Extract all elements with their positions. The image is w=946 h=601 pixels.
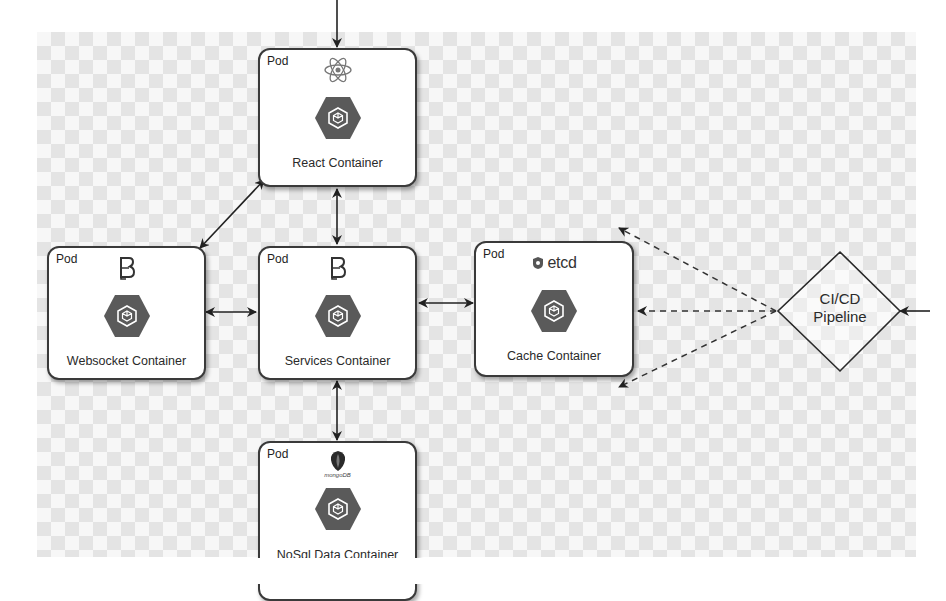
pod-cache[interactable]: Pod etcd Cache Container <box>474 241 634 377</box>
container-hexagon-icon <box>314 294 362 338</box>
cicd-label-line2: Pipeline <box>780 308 900 326</box>
pod-websocket[interactable]: Pod Websocket Container <box>47 246 206 380</box>
pod-title: Websocket Container <box>49 354 204 368</box>
etcd-logo-text: etcd <box>547 254 576 272</box>
crop-mask <box>0 558 946 584</box>
pod-title: React Container <box>260 156 415 170</box>
pod-services[interactable]: Pod Services Container <box>258 246 417 380</box>
bitbucket-b-icon <box>260 254 415 282</box>
bitbucket-b-icon <box>49 254 204 282</box>
pod-react[interactable]: Pod React Container <box>258 48 417 187</box>
container-hexagon-icon <box>314 96 362 140</box>
container-hexagon-icon <box>314 487 362 531</box>
pod-title: Cache Container <box>476 349 632 363</box>
etcd-icon: etcd <box>476 249 632 277</box>
cicd-pipeline-label: CI/CD Pipeline <box>780 290 900 326</box>
mongodb-logo-text: mongoDB <box>324 472 351 478</box>
container-hexagon-icon <box>530 289 578 333</box>
mongodb-leaf-icon: mongoDB <box>260 447 415 481</box>
edge-cicd-upper <box>619 228 776 311</box>
container-hexagon-icon <box>103 294 151 338</box>
edge-react-websocket <box>200 180 264 248</box>
react-atom-icon <box>260 56 415 84</box>
pod-title: Services Container <box>260 354 415 368</box>
edge-cicd-lower <box>619 311 776 387</box>
cicd-label-line1: CI/CD <box>780 290 900 308</box>
